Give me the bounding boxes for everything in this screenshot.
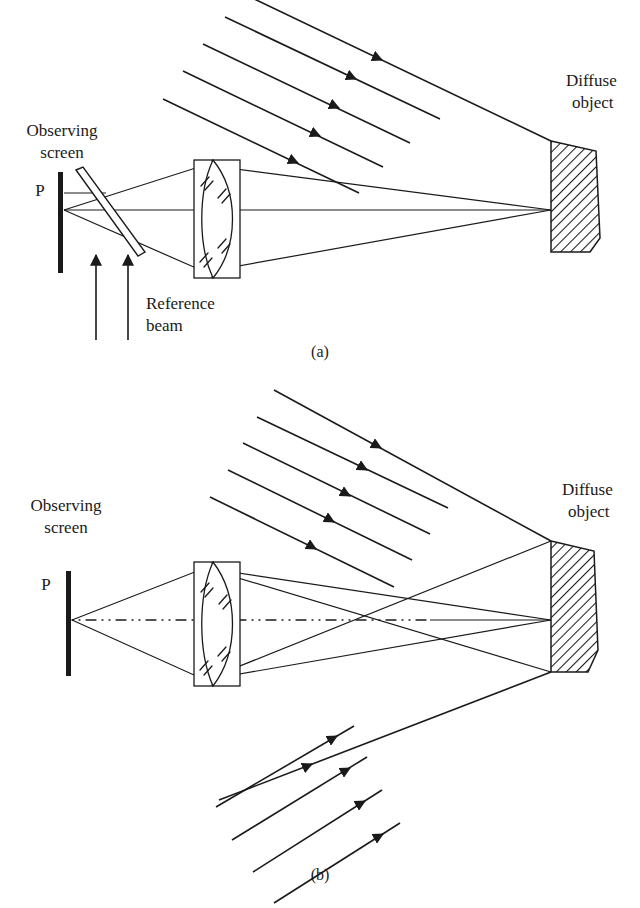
diffuse-object-label-a-line2: object [572,93,614,112]
illumination-ray-upper-5-arrow [307,544,316,549]
diffuse-object-a [551,141,600,252]
beam-splitter-a [76,167,145,256]
observing-screen-b [66,571,71,676]
marginal-ray-upper-b [72,568,551,620]
illumination-ray-lower-2-arrow [328,736,337,741]
illumination-ray-upper-4-arrow [325,517,334,522]
illumination-ray-lower-3-arrow [341,768,350,773]
panel-b-imaging-cone [72,541,551,680]
illumination-ray-upper-2 [257,417,448,508]
panel-a: Observing screen P Diffuse object Refere… [27,0,617,361]
illumination-ray-upper-4 [228,470,412,560]
diffuse-object-label-b-line1: Diffuse [562,480,613,499]
illumination-ray-lower-1 [219,672,551,800]
reference-beam-label-line2: beam [146,316,183,335]
illumination-ray-2 [225,17,440,119]
illumination-ray-upper-3-arrow [341,491,350,496]
panel-a-reference-beam-arrows [96,255,128,340]
panel-b-illumination-rays-lower [216,672,551,903]
illumination-ray-5 [163,99,359,193]
illumination-ray-1 [248,0,551,141]
reference-beam-label-line1: Reference [146,294,215,313]
beam-splitter-plate [76,167,145,256]
panel-a-imaging-cone [64,165,551,272]
observing-screen-label-a-line1: Observing [27,121,98,140]
diffuse-object-label-b-line2: object [568,502,610,521]
illumination-ray-1-arrow [373,56,382,60]
illumination-ray-upper-3 [243,443,430,534]
panel-a-caption: (a) [311,343,329,361]
illumination-ray-lower-1-arrow [303,764,312,768]
panel-b-caption: (b) [311,866,330,884]
illumination-ray-upper-1-arrow [372,443,381,448]
observing-screen-label-b-line1: Observing [31,496,102,515]
panel-b: Observing screen P Diffuse object (b) [31,390,613,903]
marginal-ray-upper [64,165,551,210]
illumination-ray-upper-2-arrow [358,465,367,470]
figure-root: Observing screen P Diffuse object Refere… [0,0,640,908]
object-top-to-lens-b [205,541,551,680]
observing-screen-a [58,172,63,273]
illumination-ray-lower-5-arrow [374,834,383,839]
point-p-label-b: P [41,575,50,594]
illumination-ray-2-arrow [347,75,356,79]
lens-assembly-a [194,160,240,278]
illumination-ray-upper-1 [274,390,551,541]
diffuse-object-b [551,541,598,672]
optics-figure-svg: Observing screen P Diffuse object Refere… [0,0,640,908]
panel-b-illumination-rays-upper [210,390,551,587]
observing-screen-label-b-line2: screen [44,518,88,537]
point-p-label-a: P [35,181,44,200]
diffuse-object-label-a-line1: Diffuse [566,71,617,90]
lens-assembly-b [194,562,240,686]
observing-screen-label-a-line2: screen [40,143,84,162]
illumination-ray-4 [183,71,383,167]
illumination-ray-lower-4-arrow [356,801,365,806]
